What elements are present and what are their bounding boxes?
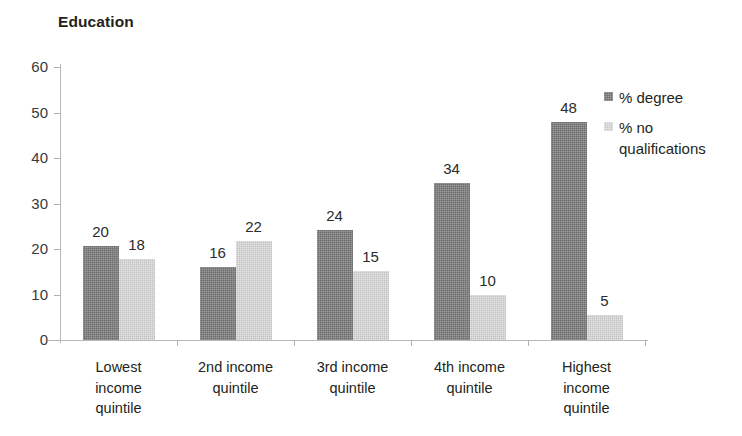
x-tick-1 (294, 340, 295, 346)
x-tick-2 (411, 340, 412, 346)
x-tick-0 (177, 340, 178, 346)
y-tick-label-50: 50 (14, 105, 48, 120)
category-label-2: 3rd income quintile (286, 357, 419, 398)
bar-degree-3[interactable] (434, 183, 470, 340)
bar-value-label: 15 (341, 249, 401, 264)
bar-no-qualifications-4[interactable] (587, 315, 623, 340)
bar-no-qualifications-1[interactable] (236, 241, 272, 340)
y-tick-label-10: 10 (14, 287, 48, 302)
y-tick-label-40: 40 (14, 150, 48, 165)
light-swatch-icon (604, 122, 613, 131)
y-tick-label-20: 20 (14, 241, 48, 256)
category-label-4: Highest income quintile (520, 357, 653, 419)
legend-label-no-qualifications: % no qualifications (619, 118, 742, 159)
y-tick-label-0: 0 (14, 332, 48, 347)
x-tick-3 (528, 340, 529, 346)
x-tick-4 (645, 340, 646, 346)
category-label-0: Lowest income quintile (52, 357, 185, 419)
y-tick-0 (54, 340, 61, 341)
legend-item-degree[interactable]: % degree (604, 88, 742, 108)
category-label-1: 2nd income quintile (169, 357, 302, 398)
bar-value-label: 22 (224, 219, 284, 234)
x-axis-line (48, 340, 648, 341)
bar-value-label: 24 (305, 208, 365, 223)
legend-label-degree: % degree (619, 88, 742, 108)
chart-title: Education (58, 13, 134, 31)
bar-value-label: 5 (575, 293, 635, 308)
bar-degree-2[interactable] (317, 230, 353, 340)
plot-area: 2018162224153410485 (60, 67, 645, 340)
bar-value-label: 18 (107, 237, 167, 252)
y-tick-label-30: 30 (14, 196, 48, 211)
education-bar-chart: Education 0102030405060 2018162224153410… (0, 0, 742, 436)
legend-item-no-qualifications[interactable]: % no qualifications (604, 118, 742, 159)
y-axis-tick-labels: 0102030405060 (12, 0, 48, 436)
bar-no-qualifications-3[interactable] (470, 295, 506, 340)
chart-legend: % degree % no qualifications (604, 88, 742, 169)
y-tick-label-60: 60 (14, 59, 48, 74)
bar-no-qualifications-0[interactable] (119, 259, 155, 340)
dark-swatch-icon (604, 92, 613, 101)
bar-no-qualifications-2[interactable] (353, 271, 389, 340)
bar-value-label: 10 (458, 273, 518, 288)
bar-degree-0[interactable] (83, 246, 119, 340)
bar-value-label: 34 (422, 161, 482, 176)
bar-degree-1[interactable] (200, 267, 236, 340)
category-label-3: 4th income quintile (403, 357, 536, 398)
bar-value-label: 48 (539, 100, 599, 115)
